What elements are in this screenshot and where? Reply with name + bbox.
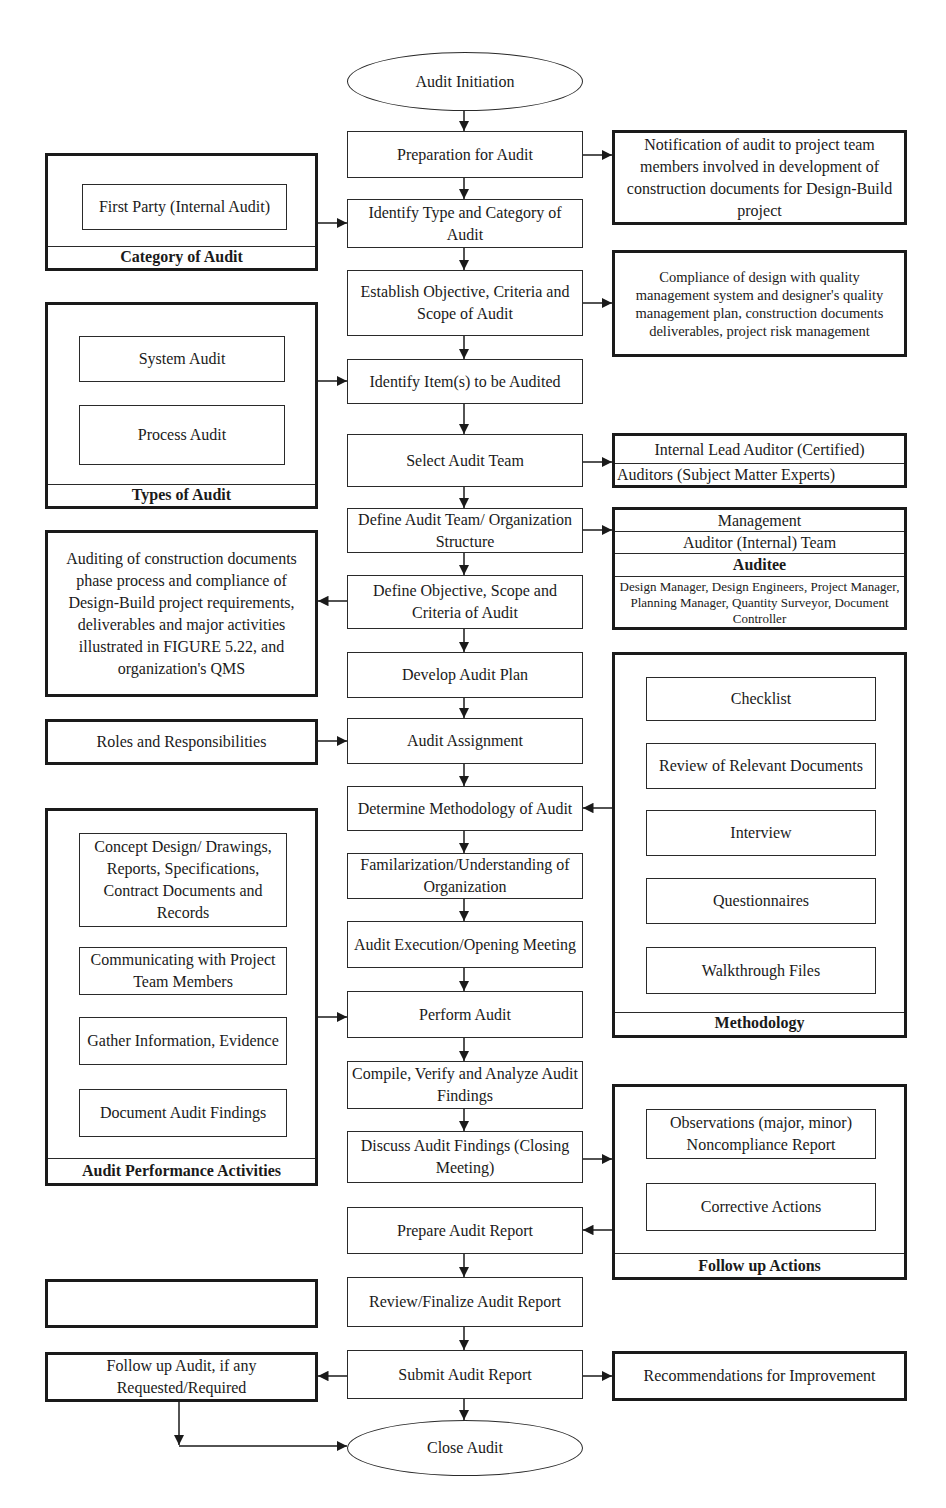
step-prepare-report: Prepare Audit Report bbox=[347, 1207, 583, 1254]
methodology-item-questionnaires: Questionnaires bbox=[646, 878, 876, 924]
recommendations-box: Recommendations for Improvement bbox=[612, 1351, 907, 1401]
types-group-label: Types of Audit bbox=[48, 484, 315, 506]
performance-item-gather-information: Gather Information, Evidence bbox=[79, 1017, 287, 1065]
step-define-audit-team: Define Audit Team/ Organization Structur… bbox=[347, 508, 583, 553]
performance-item-document-findings: Document Audit Findings bbox=[79, 1089, 287, 1137]
methodology-group: Checklist Review of Relevant Documents I… bbox=[612, 652, 907, 1038]
category-group-label: Category of Audit bbox=[48, 246, 315, 268]
auditee-label-row: Auditee bbox=[615, 554, 904, 577]
step-preparation: Preparation for Audit bbox=[347, 131, 583, 178]
organization-structure-box: Management Auditor (Internal) Team Audit… bbox=[612, 507, 907, 630]
step-review-finalize-report: Review/Finalize Audit Report bbox=[347, 1277, 583, 1327]
step-audit-execution: Audit Execution/Opening Meeting bbox=[347, 921, 583, 968]
auditee-members-row: Design Manager, Design Engineers, Projec… bbox=[615, 578, 904, 628]
step-perform-audit: Perform Audit bbox=[347, 991, 583, 1038]
follow-up-item-corrective-actions: Corrective Actions bbox=[646, 1183, 876, 1231]
follow-up-actions-group: Observations (major, minor) Noncomplianc… bbox=[612, 1084, 907, 1280]
start-terminal: Audit Initiation bbox=[347, 52, 583, 111]
follow-up-group-label: Follow up Actions bbox=[615, 1253, 904, 1277]
step-define-objective-scope: Define Objective, Scope and Criteria of … bbox=[347, 575, 583, 629]
type-item-process-audit: Process Audit bbox=[79, 405, 285, 465]
category-of-audit-group: First Party (Internal Audit) Category of… bbox=[45, 153, 318, 271]
methodology-item-checklist: Checklist bbox=[646, 677, 876, 721]
scope-note-box: Auditing of construction documents phase… bbox=[45, 530, 318, 697]
audit-team-box: Internal Lead Auditor (Certified) Audito… bbox=[612, 433, 907, 488]
audit-performance-activities-group: Concept Design/ Drawings, Reports, Speci… bbox=[45, 808, 318, 1186]
types-of-audit-group: System Audit Process Audit Types of Audi… bbox=[45, 302, 318, 509]
end-terminal: Close Audit bbox=[347, 1420, 583, 1476]
start-label: Audit Initiation bbox=[415, 73, 514, 91]
roles-responsibilities-box: Roles and Responsibilities bbox=[45, 719, 318, 765]
methodology-item-walkthrough-files: Walkthrough Files bbox=[646, 947, 876, 994]
management-row: Management bbox=[615, 510, 904, 532]
step-determine-methodology: Determine Methodology of Audit bbox=[347, 786, 583, 831]
step-develop-audit-plan: Develop Audit Plan bbox=[347, 652, 583, 698]
auditor-team-row: Auditor (Internal) Team bbox=[615, 532, 904, 554]
step-compile-findings: Compile, Verify and Analyze Audit Findin… bbox=[347, 1061, 583, 1109]
follow-up-audit-box: Follow up Audit, if any Requested/Requir… bbox=[45, 1352, 318, 1402]
type-item-system-audit: System Audit bbox=[79, 336, 285, 382]
category-item-first-party: First Party (Internal Audit) bbox=[82, 184, 287, 230]
methodology-item-interview: Interview bbox=[646, 810, 876, 856]
end-label: Close Audit bbox=[427, 1439, 503, 1457]
notification-box: Notification of audit to project team me… bbox=[612, 130, 907, 225]
methodology-group-label: Methodology bbox=[615, 1012, 904, 1035]
step-identify-items: Identify Item(s) to be Audited bbox=[347, 359, 583, 404]
methodology-item-review-documents: Review of Relevant Documents bbox=[646, 743, 876, 789]
performance-item-concept-design: Concept Design/ Drawings, Reports, Speci… bbox=[79, 833, 287, 927]
follow-up-item-observations: Observations (major, minor) Noncomplianc… bbox=[646, 1109, 876, 1159]
step-identify-type-category: Identify Type and Category of Audit bbox=[347, 199, 583, 248]
lead-auditor-row: Internal Lead Auditor (Certified) bbox=[615, 436, 904, 464]
performance-item-communicating: Communicating with Project Team Members bbox=[79, 947, 287, 995]
empty-box bbox=[45, 1279, 318, 1328]
step-audit-assignment: Audit Assignment bbox=[347, 718, 583, 764]
step-submit-report: Submit Audit Report bbox=[347, 1350, 583, 1399]
performance-group-label: Audit Performance Activities bbox=[48, 1158, 315, 1183]
step-familiarization: Familarization/Understanding of Organiza… bbox=[347, 853, 583, 899]
step-establish-objective: Establish Objective, Criteria and Scope … bbox=[347, 270, 583, 336]
compliance-box: Compliance of design with quality manage… bbox=[612, 250, 907, 357]
step-select-audit-team: Select Audit Team bbox=[347, 434, 583, 487]
auditors-row: Auditors (Subject Matter Experts) bbox=[615, 464, 904, 486]
step-discuss-findings: Discuss Audit Findings (Closing Meeting) bbox=[347, 1131, 583, 1183]
